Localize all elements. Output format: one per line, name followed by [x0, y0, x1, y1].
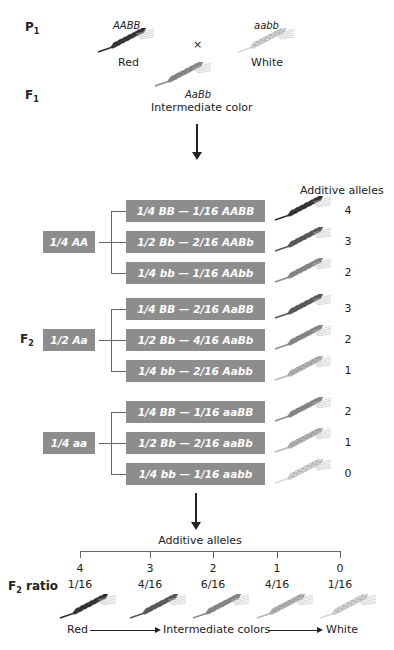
ratio-value: 4/16	[130, 578, 170, 591]
parent-genotype-box: 1/2 Aa	[43, 329, 95, 351]
connector-tick	[111, 273, 126, 274]
wheat-icon-f1	[153, 62, 213, 88]
wheat-icon	[128, 594, 188, 620]
connector-tick	[111, 474, 126, 475]
additive-allele-count: 2	[341, 405, 355, 418]
scale-arrowhead-2	[317, 627, 323, 633]
connector-tick	[111, 242, 126, 243]
wheat-icon	[273, 227, 333, 253]
f2-genotype-box: 1/2 Bb — 2/16 AABb	[126, 231, 265, 253]
wheat-icon-white	[236, 28, 296, 54]
f2-label: F2	[20, 332, 34, 348]
f2-ratio-label: F2 ratio	[8, 579, 58, 595]
wheat-icon	[273, 356, 333, 382]
wheat-icon	[273, 294, 333, 320]
ratio-value: 1/16	[60, 578, 100, 591]
connector-tick	[111, 211, 126, 212]
wheat-icon	[255, 594, 315, 620]
f2-genotype-box: 1/2 Bb — 4/16 AaBb	[126, 329, 265, 351]
scale-white: White	[326, 623, 358, 636]
ratio-allele-count: 3	[130, 562, 170, 575]
ratio-tick	[340, 551, 341, 558]
additive-allele-count: 2	[341, 266, 355, 279]
wheat-icon-red	[96, 28, 156, 54]
arrow-down-f1	[196, 124, 198, 153]
additive-allele-count: 1	[341, 364, 355, 377]
ratio-value: 6/16	[193, 578, 233, 591]
wheat-icon	[273, 196, 333, 222]
f1-phenotype: Intermediate color	[151, 101, 253, 114]
parent-genotype-box: 1/4 AA	[43, 231, 95, 253]
ratio-allele-count: 2	[193, 562, 233, 575]
ratio-allele-count: 4	[60, 562, 100, 575]
wheat-icon	[318, 594, 378, 620]
p1-white-phenotype: White	[251, 56, 283, 69]
f2-genotype-box: 1/4 BB — 1/16 aaBB	[126, 401, 265, 423]
connector-tick	[111, 443, 126, 444]
scale-red: Red	[67, 623, 88, 636]
scale-intermediate: Intermediate colors	[163, 623, 270, 636]
wheat-icon	[191, 594, 251, 620]
scale-arrow-2	[268, 630, 318, 631]
ratio-tick	[213, 551, 214, 558]
cross-symbol: ×	[193, 38, 202, 51]
f2-genotype-box: 1/4 bb — 1/16 aabb	[126, 463, 265, 485]
wheat-icon	[273, 258, 333, 284]
f2-genotype-box: 1/2 Bb — 2/16 aaBb	[126, 432, 265, 454]
additive-allele-count: 3	[341, 235, 355, 248]
f2-genotype-box: 1/4 BB — 1/16 AABB	[126, 200, 265, 222]
f1-genotype: AaBb	[185, 89, 211, 100]
wheat-icon	[58, 594, 118, 620]
f1-label: F1	[25, 88, 39, 104]
ratio-bracket-line	[80, 551, 341, 552]
additive-allele-count: 1	[341, 436, 355, 449]
wheat-icon	[273, 325, 333, 351]
connector-tick	[111, 371, 126, 372]
f2-genotype-box: 1/4 bb — 1/16 AAbb	[126, 262, 265, 284]
additive-allele-count: 3	[341, 302, 355, 315]
connector-tick	[111, 309, 126, 310]
connector-tick	[111, 412, 126, 413]
parent-genotype-box: 1/4 aa	[43, 432, 95, 454]
f2-genotype-box: 1/4 bb — 2/16 Aabb	[126, 360, 265, 382]
wheat-icon	[273, 397, 333, 423]
p1-red-phenotype: Red	[118, 56, 139, 69]
additive-allele-count: 4	[341, 204, 355, 217]
scale-arrow-1	[90, 630, 156, 631]
wheat-icon	[273, 459, 333, 485]
additive-allele-count: 0	[341, 467, 355, 480]
scale-arrowhead-1	[155, 627, 161, 633]
additive-allele-count: 2	[341, 333, 355, 346]
ratio-tick	[80, 551, 81, 558]
wheat-icon	[273, 428, 333, 454]
ratio-allele-count: 1	[257, 562, 297, 575]
ratio-value: 1/16	[320, 578, 360, 591]
f2-genotype-box: 1/4 BB — 2/16 AaBB	[126, 298, 265, 320]
ratio-alleles-header: Additive alleles	[140, 534, 260, 547]
ratio-tick	[277, 551, 278, 558]
arrow-down-f2	[195, 493, 197, 523]
ratio-value: 4/16	[257, 578, 297, 591]
ratio-tick	[150, 551, 151, 558]
connector-tick	[111, 340, 126, 341]
p1-label: P1	[25, 20, 39, 36]
ratio-allele-count: 0	[320, 562, 360, 575]
